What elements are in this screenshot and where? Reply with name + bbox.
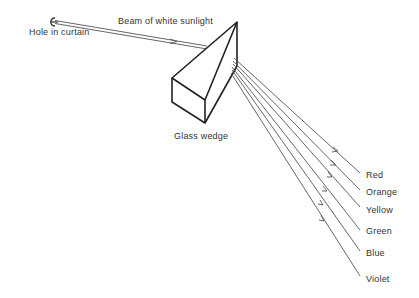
beam-label: Beam of white sunlight — [118, 16, 213, 26]
dispersed-rays — [231, 58, 360, 276]
beam-arrow-icon — [170, 39, 177, 44]
spectrum-label-blue: Blue — [366, 248, 385, 258]
spectrum-label-green: Green — [366, 226, 392, 236]
hole-in-curtain-icon — [50, 18, 58, 26]
ray-green — [232, 67, 360, 230]
spectrum-label-orange: Orange — [366, 187, 397, 197]
ray-violet — [231, 73, 360, 276]
ray-yellow — [233, 64, 360, 207]
ray-blue — [232, 70, 360, 251]
spectrum-label-violet: Violet — [366, 274, 390, 284]
ray-orange — [233, 61, 360, 190]
prism-label: Glass wedge — [174, 131, 228, 141]
hole-label: Hole in curtain — [29, 27, 90, 37]
spectrum-label-yellow: Yellow — [366, 205, 393, 215]
prism-diagram — [0, 0, 419, 298]
spectrum-label-red: Red — [366, 170, 383, 180]
arrow-blue-icon — [318, 200, 323, 205]
glass-wedge-prism — [172, 22, 237, 123]
ray-red — [234, 58, 360, 173]
